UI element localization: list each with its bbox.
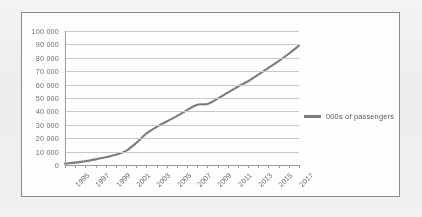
x-axis-label-2003: 2003 xyxy=(155,171,173,189)
x-axis-label-2001: 2001 xyxy=(134,171,152,189)
y-axis-label-20000: 20 000 xyxy=(36,134,59,143)
gridline-80000 xyxy=(65,58,299,59)
y-axis-label-10000: 10 000 xyxy=(36,147,59,156)
x-axis-tick-2010 xyxy=(218,165,219,168)
x-axis-tick-2013 xyxy=(248,165,249,168)
gridline-20000 xyxy=(65,138,299,139)
x-axis-tick-2014 xyxy=(258,165,259,168)
y-axis-label-40000: 40 000 xyxy=(36,107,59,116)
x-axis-tick-2007 xyxy=(187,165,188,168)
gridline-60000 xyxy=(65,85,299,86)
x-axis-label-2013: 2013 xyxy=(256,171,274,189)
gridline-50000 xyxy=(65,98,299,99)
x-axis-tick-1997 xyxy=(85,165,86,168)
x-axis-label-2011: 2011 xyxy=(236,171,254,189)
y-axis-label-30000: 30 000 xyxy=(36,120,59,129)
x-axis-tick-1995 xyxy=(65,165,66,168)
y-axis-label-70000: 70 000 xyxy=(36,67,59,76)
legend-label-000s-of-passengers: 000s of passengers xyxy=(326,112,394,121)
x-axis-tick-2018 xyxy=(299,165,300,168)
x-axis-label-2005: 2005 xyxy=(175,171,193,189)
legend-swatch-000s-of-passengers xyxy=(304,115,321,118)
x-axis-tick-1996 xyxy=(75,165,76,168)
x-axis-tick-2006 xyxy=(177,165,178,168)
y-axis-label-100000: 100 000 xyxy=(32,27,59,36)
gridline-70000 xyxy=(65,71,299,72)
y-axis-line xyxy=(65,31,66,165)
gridline-90000 xyxy=(65,44,299,45)
x-axis-label-2009: 2009 xyxy=(216,171,234,189)
x-axis-tick-2001 xyxy=(126,165,127,168)
x-axis-tick-2005 xyxy=(167,165,168,168)
x-axis-tick-2016 xyxy=(279,165,280,168)
y-axis-label-0: 0 xyxy=(55,161,59,170)
x-axis-label-2007: 2007 xyxy=(195,171,213,189)
plot-area: 010 00020 00030 00040 00050 00060 00070 … xyxy=(65,31,299,165)
x-axis-tick-2012 xyxy=(238,165,239,168)
x-axis-tick-2011 xyxy=(228,165,229,168)
series-path xyxy=(65,46,299,164)
gridline-100000 xyxy=(65,31,299,32)
chart-screenshot: 010 00020 00030 00040 00050 00060 00070 … xyxy=(0,0,422,217)
gridline-0 xyxy=(65,165,299,166)
x-axis-tick-2009 xyxy=(207,165,208,168)
x-axis-tick-2017 xyxy=(289,165,290,168)
y-axis-label-90000: 90 000 xyxy=(36,40,59,49)
y-axis-label-80000: 80 000 xyxy=(36,53,59,62)
y-axis-label-60000: 60 000 xyxy=(36,80,59,89)
x-axis-tick-2015 xyxy=(268,165,269,168)
x-axis-tick-1998 xyxy=(96,165,97,168)
x-axis-label-2015: 2015 xyxy=(277,171,295,189)
y-axis-label-50000: 50 000 xyxy=(36,94,59,103)
x-axis-label-1995: 1995 xyxy=(73,171,91,189)
x-axis-tick-2008 xyxy=(197,165,198,168)
x-axis-tick-2003 xyxy=(146,165,147,168)
x-axis-label-1997: 1997 xyxy=(94,171,112,189)
x-axis-tick-1999 xyxy=(106,165,107,168)
chart-panel: 010 00020 00030 00040 00050 00060 00070 … xyxy=(21,12,400,197)
x-axis-tick-2000 xyxy=(116,165,117,168)
gridline-40000 xyxy=(65,111,299,112)
gridline-10000 xyxy=(65,152,299,153)
x-axis-label-2017: 2017 xyxy=(297,171,315,189)
x-axis-tick-2004 xyxy=(157,165,158,168)
x-axis-label-1999: 1999 xyxy=(114,171,132,189)
gridline-30000 xyxy=(65,125,299,126)
chart-legend: 000s of passengers xyxy=(304,112,394,121)
x-axis-tick-2002 xyxy=(136,165,137,168)
